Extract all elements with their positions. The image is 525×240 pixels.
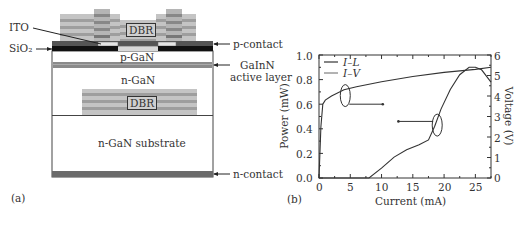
x-axis-label: Current (mA) (375, 195, 446, 207)
series-iv (319, 67, 491, 178)
y2-axis-label: Voltage (V) (503, 87, 515, 146)
ytick-0.0: 0.0 (296, 172, 313, 184)
panel-b-label: (b) (287, 193, 302, 205)
xtick-5: 5 (347, 181, 354, 193)
xtick-0: 0 (316, 181, 323, 193)
y2tick-6: 6 (494, 50, 501, 62)
xtick-15: 15 (406, 181, 419, 193)
xtick-10: 10 (375, 181, 388, 193)
y2tick-1: 1 (494, 152, 501, 164)
xtick-25: 25 (469, 181, 482, 193)
y2tick-3: 3 (494, 111, 501, 123)
y2tick-5: 5 (494, 70, 501, 82)
y2tick-2: 2 (494, 132, 501, 144)
legend-iv: I–V (343, 67, 360, 79)
ytick-1.0: 1.0 (296, 50, 313, 62)
ytick-0.2: 0.2 (296, 148, 313, 160)
il-ellipse (432, 114, 442, 136)
iv-ellipse (340, 85, 350, 107)
series-il (319, 67, 491, 178)
y2tick-0: 0 (494, 172, 501, 184)
ytick-0.6: 0.6 (296, 99, 313, 111)
ytick-0.8: 0.8 (296, 74, 313, 86)
y2tick-4: 4 (494, 91, 501, 103)
xtick-20: 20 (438, 181, 451, 193)
ytick-0.4: 0.4 (296, 123, 313, 135)
y-axis-label: Power (mW) (278, 83, 290, 148)
